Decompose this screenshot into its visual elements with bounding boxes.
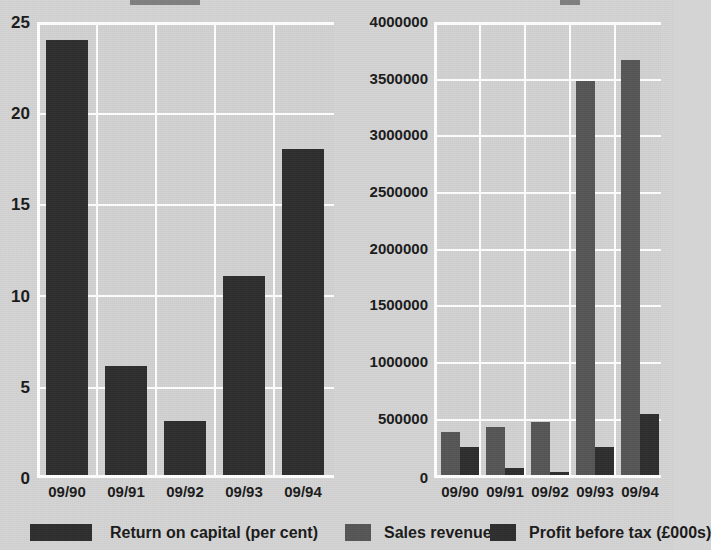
bar-profit-09-92 — [550, 472, 569, 475]
legend-swatch-sales-revenue — [345, 524, 371, 541]
gridline-x-4 — [614, 22, 616, 478]
xtick-right-09-90: 09/90 — [435, 484, 485, 499]
gridline-x-2 — [155, 22, 157, 478]
ytick-left-20: 20 — [0, 105, 30, 122]
bar-return-09-92 — [164, 421, 206, 475]
gridline-x-4 — [273, 22, 275, 478]
legend-label-sales-revenue: Sales revenue — [384, 525, 492, 541]
legend-profit-before-tax: Profit before tax (£000s) — [490, 524, 711, 541]
ytick-left-15: 15 — [0, 196, 30, 213]
plot-bottom-border — [37, 475, 334, 478]
ytick-right-2000000: 2000000 — [336, 241, 428, 256]
ytick-right-500000: 500000 — [336, 411, 428, 426]
bar-profit-09-93 — [595, 447, 614, 475]
xtick-left-09-90: 09/90 — [37, 484, 97, 499]
xtick-right-09-94: 09/94 — [615, 484, 665, 499]
ytick-right-1500000: 1500000 — [336, 297, 428, 312]
ytick-right-3000000: 3000000 — [336, 127, 428, 142]
ytick-left-25: 25 — [0, 14, 30, 31]
gridline-x-1 — [96, 22, 98, 478]
legend-swatch-profit-before-tax — [490, 524, 516, 541]
ytick-right-4000000: 4000000 — [336, 14, 428, 29]
xtick-right-09-91: 09/91 — [480, 484, 530, 499]
ytick-right-1000000: 1000000 — [336, 354, 428, 369]
bar-sales-09-94 — [621, 60, 640, 475]
plot-area-return-on-capital — [37, 22, 334, 478]
bar-profit-09-91 — [505, 468, 524, 475]
bar-return-09-94 — [282, 149, 324, 475]
ytick-right-2500000: 2500000 — [336, 184, 428, 199]
xtick-right-09-93: 09/93 — [570, 484, 620, 499]
bar-sales-09-93 — [576, 81, 595, 475]
legend-label-profit-before-tax: Profit before tax (£000s) — [529, 525, 711, 541]
xtick-left-09-92: 09/92 — [155, 484, 215, 499]
ytick-right-0: 0 — [336, 470, 428, 485]
bar-return-09-91 — [105, 366, 147, 475]
bar-sales-09-92 — [531, 422, 550, 475]
legend-return-on-capital: Return on capital (per cent) — [30, 524, 318, 541]
plot-top-border — [37, 22, 334, 25]
ytick-left-0: 0 — [0, 470, 30, 487]
xtick-left-09-91: 09/91 — [96, 484, 156, 499]
gridline-x-3 — [569, 22, 571, 478]
plot-area-sales-and-profit — [434, 22, 661, 478]
gridline-x-1 — [479, 22, 481, 478]
bar-profit-09-90 — [460, 447, 479, 475]
gridline-x-3 — [214, 22, 216, 478]
bar-sales-09-90 — [441, 432, 460, 475]
ytick-left-10: 10 — [0, 288, 30, 305]
xtick-right-09-92: 09/92 — [525, 484, 575, 499]
legend-swatch-return-on-capital — [30, 524, 92, 541]
xtick-left-09-93: 09/93 — [214, 484, 274, 499]
chart-panel-sales-and-profit: 4000000 3500000 3000000 2500000 2000000 … — [334, 0, 674, 550]
legend-label-return-on-capital: Return on capital (per cent) — [110, 525, 318, 541]
plot-left-border — [37, 22, 40, 478]
legend-sales-revenue: Sales revenue — [345, 524, 492, 541]
xtick-left-09-94: 09/94 — [273, 484, 333, 499]
bar-return-09-93 — [223, 276, 265, 475]
chart-panel-return-on-capital: 25 20 15 10 5 0 09/90 09/91 09/92 09/93 … — [0, 0, 340, 550]
plot-top-border — [434, 22, 661, 25]
bar-profit-09-94 — [640, 414, 659, 475]
plot-bottom-border — [434, 475, 661, 478]
bar-return-09-90 — [46, 40, 88, 475]
ytick-left-5: 5 — [0, 379, 30, 396]
bar-sales-09-91 — [486, 427, 505, 475]
ytick-right-3500000: 3500000 — [336, 71, 428, 86]
gridline-x-2 — [524, 22, 526, 478]
